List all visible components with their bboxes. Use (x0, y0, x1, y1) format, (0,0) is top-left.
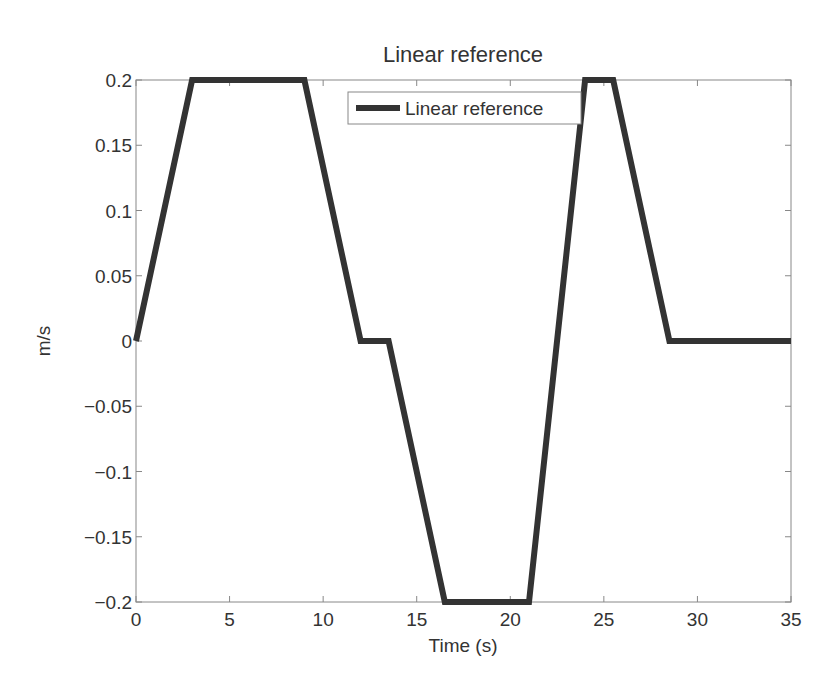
x-tick-label: 20 (500, 609, 521, 630)
x-tick-label: 25 (593, 609, 614, 630)
x-tick-label: 5 (224, 609, 235, 630)
legend: Linear reference (348, 92, 581, 124)
y-tick-label: 0.1 (106, 201, 132, 222)
x-axis-label: Time (s) (429, 635, 498, 656)
y-tick-label: −0.1 (94, 462, 132, 483)
y-tick-label: 0.15 (95, 135, 132, 156)
x-tick-label: 15 (406, 609, 427, 630)
y-tick-label: −0.2 (94, 592, 132, 613)
x-tick-label: 0 (131, 609, 142, 630)
x-tick-label: 10 (313, 609, 334, 630)
chart-title: Linear reference (383, 42, 543, 67)
legend-label: Linear reference (405, 98, 543, 119)
y-tick-label: −0.15 (84, 527, 132, 548)
line-chart: Linear reference 05101520253035 0.20.150… (0, 0, 839, 689)
y-axis-label: m/s (33, 326, 54, 357)
x-tick-label: 35 (780, 609, 801, 630)
x-tick-label: 30 (687, 609, 708, 630)
y-tick-label: −0.05 (84, 396, 132, 417)
y-tick-label: 0.05 (95, 266, 132, 287)
y-tick-label: 0.2 (106, 70, 132, 91)
y-tick-label: 0 (121, 331, 132, 352)
